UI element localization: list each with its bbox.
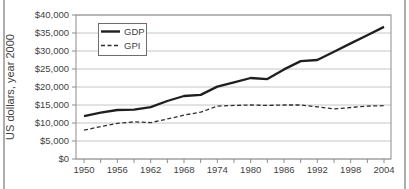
y-tick-label: $25,000 <box>35 63 69 74</box>
x-tick-label: 1950 <box>73 164 94 175</box>
x-tick-label: 1962 <box>140 164 161 175</box>
x-tick-label: 1986 <box>273 164 294 175</box>
y-tick-label: $20,000 <box>35 81 69 92</box>
x-tick-label: 2004 <box>373 164 394 175</box>
y-tick-label: $30,000 <box>35 45 69 56</box>
y-tick-label: $15,000 <box>35 99 69 110</box>
left-edge-rule <box>3 0 5 189</box>
y-tick-label: $0 <box>58 153 69 164</box>
y-axis-title: US dollars, year 2000 <box>4 34 16 140</box>
y-tick-label: $10,000 <box>35 117 69 128</box>
x-tick-label: 1956 <box>107 164 128 175</box>
x-tick-label: 1998 <box>340 164 361 175</box>
legend-gpi-label: GPI <box>124 40 140 51</box>
right-edge-rule <box>404 0 406 189</box>
y-tick-label: $40,000 <box>35 9 69 20</box>
x-tick-label: 1980 <box>240 164 261 175</box>
chart-panel: US dollars, year 2000 $0$5,000$10,000$15… <box>0 0 409 189</box>
y-tick-label: $35,000 <box>35 27 69 38</box>
legend-gdp-label: GDP <box>124 26 145 37</box>
legend: GDP GPI <box>99 24 147 56</box>
x-tick-label: 1992 <box>307 164 328 175</box>
gdp-gpi-line-chart: US dollars, year 2000 $0$5,000$10,000$15… <box>0 0 409 189</box>
x-tick-label: 1968 <box>173 164 194 175</box>
y-tick-label: $5,000 <box>40 135 69 146</box>
x-tick-label: 1974 <box>207 164 228 175</box>
